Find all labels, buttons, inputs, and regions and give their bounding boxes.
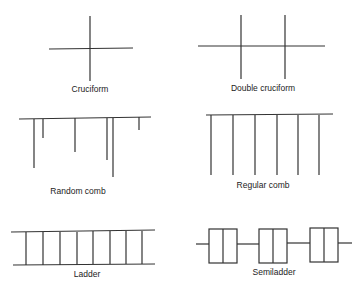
semiladder-label: Semiladder [253,267,296,277]
double-cruciform-label: Double cruciform [231,83,295,93]
ladder-label: Ladder [74,269,100,279]
double-cruciform-diagram [198,15,325,79]
regular-comb-label: Regular comb [237,180,290,190]
semiladder-diagram [196,228,352,263]
regular-comb-diagram [206,114,333,175]
random-comb-diagram [19,117,151,177]
cruciform-label: Cruciform [72,84,109,94]
random-comb-label: Random comb [50,186,105,196]
ladder-diagram [11,230,155,265]
diagram-canvas [0,0,360,291]
cruciform-diagram [49,16,133,81]
